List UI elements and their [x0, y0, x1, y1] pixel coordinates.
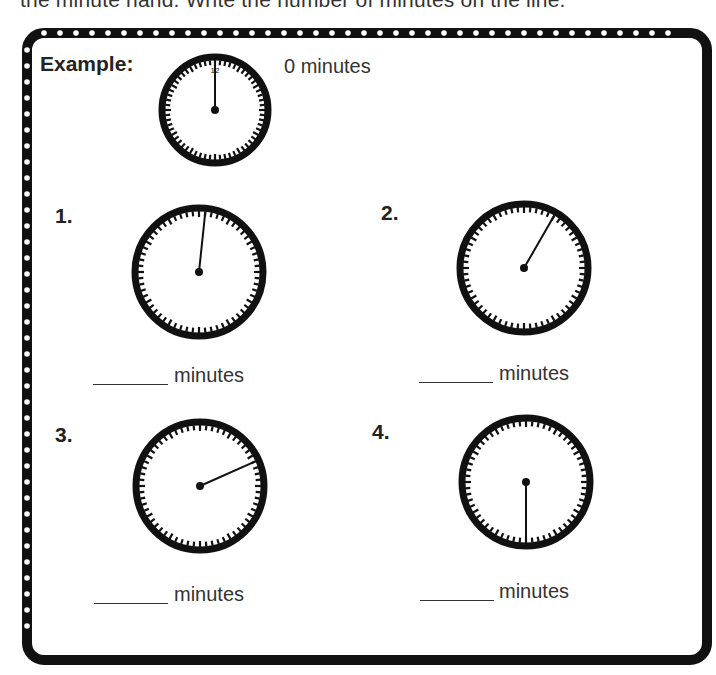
problem-1-unit: minutes — [174, 364, 244, 387]
problem-3-label: 3. — [55, 423, 73, 447]
example-clock: 12 — [158, 53, 272, 167]
problem-1-clock — [131, 204, 267, 340]
problem-4-clock — [458, 414, 594, 550]
problem-2-clock — [456, 200, 592, 336]
example-answer: 0 minutes — [284, 55, 371, 78]
problem-4-answer-line[interactable] — [420, 600, 494, 601]
dotted-border-frame — [22, 28, 712, 665]
problem-1-answer-line[interactable] — [93, 384, 168, 385]
example-label: Example: — [40, 52, 133, 76]
problem-2-unit: minutes — [499, 362, 569, 385]
problem-3-unit: minutes — [174, 583, 244, 606]
problem-4-unit: minutes — [499, 580, 569, 603]
problem-3-clock — [132, 418, 268, 554]
instruction-text: the minute hand. Write the number of min… — [20, 0, 566, 12]
problem-3-answer-line[interactable] — [94, 603, 168, 604]
problem-1-label: 1. — [55, 204, 73, 228]
problem-4-label: 4. — [372, 420, 390, 444]
problem-2-label: 2. — [381, 201, 399, 225]
problem-2-answer-line[interactable] — [419, 382, 493, 383]
